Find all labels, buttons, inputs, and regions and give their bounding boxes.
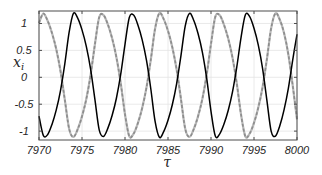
y-tick-label: 0 — [21, 71, 28, 83]
y-tick-label: -1 — [19, 125, 29, 137]
x-tick-label: 7995 — [242, 144, 267, 156]
x-axis-label: τ — [163, 154, 171, 170]
x-tick-label: 7990 — [199, 144, 224, 156]
x-tick-label: 8000 — [285, 144, 310, 156]
line-chart: 7970797579807985799079958000 -1-0.500.51… — [0, 0, 322, 175]
y-axis-label-base: x — [13, 54, 21, 70]
y-tick-label: -0.5 — [15, 98, 35, 110]
x-tick-label: 7975 — [70, 144, 95, 156]
x-tick-label: 7980 — [113, 144, 138, 156]
y-tick-label: 1 — [21, 17, 27, 29]
y-axis-label-subscript: i — [21, 61, 24, 72]
x-tick-label: 7970 — [27, 144, 52, 156]
figure: 7970797579807985799079958000 -1-0.500.51… — [0, 0, 322, 175]
